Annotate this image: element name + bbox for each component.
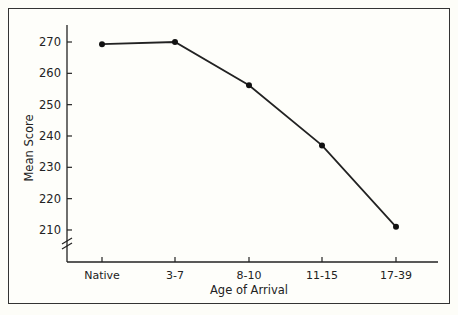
data-point: [393, 224, 399, 230]
y-tick-label: 250: [39, 98, 61, 112]
data-point: [99, 41, 105, 47]
x-tick-label: 3-7: [166, 269, 184, 282]
x-tick-label: 11-15: [306, 269, 338, 282]
line-chart: 210220230240250260270Native3-78-1011-151…: [0, 0, 458, 315]
x-tick-label: 8-10: [237, 269, 262, 282]
data-point: [172, 39, 178, 45]
y-tick-label: 220: [39, 192, 61, 206]
data-point: [319, 142, 325, 148]
y-tick-label: 240: [39, 129, 61, 143]
y-tick-label: 260: [39, 66, 61, 80]
data-line: [102, 42, 396, 227]
x-axis-title: Age of Arrival: [210, 283, 288, 297]
y-tick-label: 230: [39, 160, 61, 174]
y-tick-label: 210: [39, 223, 61, 237]
y-tick-label: 270: [39, 35, 61, 49]
y-axis-title: Mean Score: [22, 114, 36, 181]
x-tick-label: Native: [84, 269, 120, 282]
data-point: [246, 82, 252, 88]
x-tick-label: 17-39: [380, 269, 412, 282]
